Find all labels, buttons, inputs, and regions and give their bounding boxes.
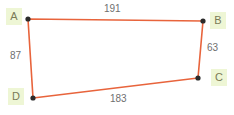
quadrilateral-outline <box>28 19 203 98</box>
vertex-dot-c <box>195 75 200 80</box>
vertex-label-b: B <box>210 12 226 29</box>
vertex-label-a: A <box>6 8 22 25</box>
vertex-label-c: C <box>211 69 227 86</box>
vertex-label-d: D <box>8 88 24 105</box>
vertex-dot-d <box>30 95 35 100</box>
edge-measure-ab: 191 <box>104 3 121 15</box>
vertex-dot-a <box>25 16 30 21</box>
edge-measure-bc: 63 <box>207 42 218 54</box>
edge-measure-cd: 183 <box>110 93 127 105</box>
geometry-diagram-canvas: A B C D 191 63 183 87 <box>0 0 234 115</box>
edge-measure-da: 87 <box>10 50 21 62</box>
vertex-dot-b <box>200 18 205 23</box>
